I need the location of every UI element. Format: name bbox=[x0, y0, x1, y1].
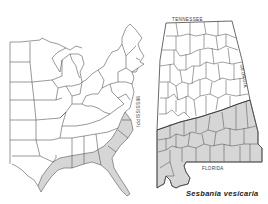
label-florida: FLORIDA bbox=[202, 166, 224, 171]
distribution-map bbox=[0, 0, 268, 204]
label-tennessee: TENNESSEE bbox=[172, 17, 203, 22]
label-mississippi: MISSISSIPPI bbox=[135, 96, 140, 127]
species-caption: Sesbania vesicaria bbox=[186, 189, 259, 198]
alabama-county-map bbox=[157, 21, 262, 188]
eastern-us-map bbox=[10, 24, 144, 196]
